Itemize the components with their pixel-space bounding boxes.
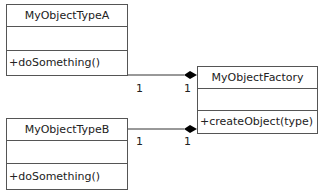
class-my-object-factory[interactable]: MyObjectFactory +createObject(type) xyxy=(197,66,318,134)
class-operation: +createObject(type) xyxy=(198,111,317,133)
multiplicity-label: 1 xyxy=(184,83,191,95)
class-attributes xyxy=(198,89,317,111)
composition-diamond-icon xyxy=(184,71,197,79)
class-operation: +doSomething() xyxy=(7,164,127,189)
class-attributes xyxy=(7,27,127,51)
composition-diamond-icon xyxy=(184,125,197,133)
class-my-object-type-b[interactable]: MyObjectTypeB +doSomething() xyxy=(6,118,128,190)
multiplicity-label: 1 xyxy=(136,136,143,148)
class-attributes xyxy=(7,141,127,164)
class-name: MyObjectTypeA xyxy=(7,5,127,27)
class-name: MyObjectTypeB xyxy=(7,119,127,141)
class-my-object-type-a[interactable]: MyObjectTypeA +doSomething() xyxy=(6,4,128,76)
class-name: MyObjectFactory xyxy=(198,67,317,89)
multiplicity-label: 1 xyxy=(136,83,143,95)
class-operation: +doSomething() xyxy=(7,51,127,75)
multiplicity-label: 1 xyxy=(184,136,191,148)
